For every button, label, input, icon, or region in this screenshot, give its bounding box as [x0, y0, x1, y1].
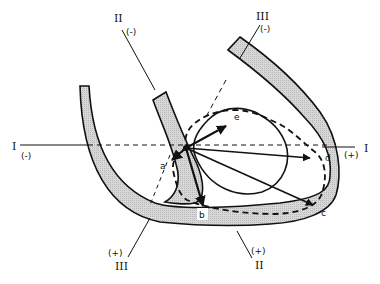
lead-I-neg-label: I — [12, 140, 16, 153]
lead-III-neg-sign: (-) — [260, 24, 270, 34]
lead-II-pos-sign: (+) — [251, 246, 266, 256]
lead-I-neg-sign: (-) — [21, 151, 31, 161]
vector-label-d: d — [325, 153, 331, 163]
vector-label-a: a — [160, 161, 166, 171]
lead-III-pos-label: III — [115, 260, 128, 273]
lead-II-axis-bottom — [237, 231, 252, 258]
lead-III-neg-label: III — [256, 10, 269, 23]
vector-label-b: b — [199, 210, 205, 220]
lead-III-pos-sign: (+) — [108, 248, 123, 258]
lead-I-pos-sign: (+) — [344, 150, 359, 160]
lead-II-pos-label: II — [255, 259, 264, 272]
vector-label-e: e — [234, 112, 240, 122]
vector-label-c: c — [321, 208, 326, 218]
cardiac-vector-diagram: a b c d e I (-) (+) I II (-) (+) II III … — [0, 0, 380, 284]
lead-II-axis-top — [122, 30, 155, 90]
lead-II-neg-sign: (-) — [126, 27, 136, 37]
lead-III-axis-bottom — [128, 218, 150, 257]
lead-II-neg-label: II — [114, 12, 123, 25]
lead-I-pos-label: I — [364, 142, 368, 155]
